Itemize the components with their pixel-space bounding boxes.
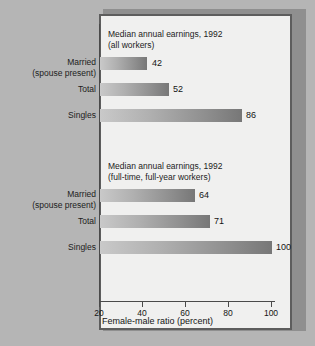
- x-tick-20: [99, 302, 100, 307]
- category-label-total-fulltime: Total: [0, 216, 96, 227]
- category-label-singles-all-workers: Singles: [0, 110, 96, 121]
- y-axis-line: [99, 24, 100, 302]
- group2-subtitle: Median annual earnings, 1992 (full-time,…: [108, 161, 222, 182]
- bar-total-fulltime: [100, 215, 210, 228]
- bar-singles-all-workers: [100, 109, 242, 122]
- group2-subtitle-line1: Median annual earnings, 1992: [108, 161, 222, 172]
- plot-area: Median annual earnings, 1992 (all worker…: [99, 14, 292, 330]
- x-axis-title: Female-male ratio (percent): [0, 316, 315, 326]
- x-axis-line: [99, 301, 275, 302]
- group2-subtitle-line2: (full-time, full-year workers): [108, 172, 222, 183]
- category-label-line2: (spouse present): [0, 200, 96, 211]
- category-label-married-all-workers: Married (spouse present): [0, 57, 96, 78]
- chart-figure: Median annual earnings, 1992 (all worker…: [0, 0, 315, 346]
- bar-value-total-all-workers: 52: [173, 83, 183, 96]
- bar-singles-fulltime: [100, 241, 272, 254]
- x-tick-80: [228, 302, 229, 307]
- category-label-line1: Married: [0, 57, 96, 68]
- x-tick-40: [142, 302, 143, 307]
- bar-married-fulltime: [100, 189, 195, 202]
- category-label-line1: Married: [0, 189, 96, 200]
- category-label-married-fulltime: Married (spouse present): [0, 189, 96, 210]
- bar-value-married-all-workers: 42: [152, 57, 162, 70]
- group1-subtitle: Median annual earnings, 1992 (all worker…: [108, 29, 222, 50]
- bar-married-all-workers: [100, 57, 147, 70]
- category-label-singles-fulltime: Singles: [0, 242, 96, 253]
- group1-subtitle-line2: (all workers): [108, 40, 222, 51]
- bar-value-married-fulltime: 64: [199, 189, 209, 202]
- bar-value-total-fulltime: 71: [214, 215, 224, 228]
- bar-value-singles-fulltime: 100: [276, 241, 291, 254]
- x-tick-100: [271, 302, 272, 307]
- group1-subtitle-line1: Median annual earnings, 1992: [108, 29, 222, 40]
- x-tick-60: [185, 302, 186, 307]
- category-label-line2: (spouse present): [0, 68, 96, 79]
- category-label-total-all-workers: Total: [0, 84, 96, 95]
- bar-value-singles-all-workers: 86: [246, 109, 256, 122]
- bar-total-all-workers: [100, 83, 169, 96]
